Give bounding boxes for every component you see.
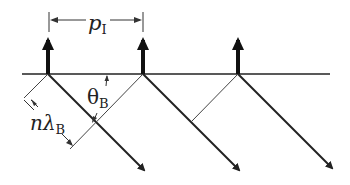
period-dimension: pI xyxy=(49,11,143,37)
emitter-arrows xyxy=(42,37,244,74)
path-difference-label: nλB xyxy=(30,111,65,137)
wavefront-2 xyxy=(192,74,238,121)
period-label: pI xyxy=(88,11,107,37)
wavefront-3 xyxy=(24,74,48,98)
ray-3 xyxy=(238,74,332,168)
angle-label: θB xyxy=(87,85,109,111)
bragg-diffraction-diagram: pI θB nλB xyxy=(0,0,350,185)
path-difference-annotation: nλB xyxy=(24,99,73,146)
